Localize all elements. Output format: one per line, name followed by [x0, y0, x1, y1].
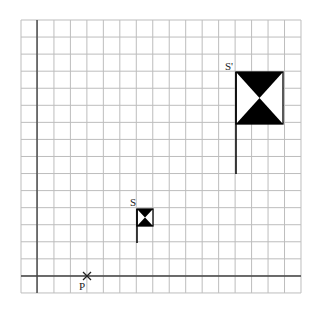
enlargement-diagram: SS'P: [0, 0, 318, 320]
label-s-prime: S': [225, 60, 233, 72]
label-p: P: [79, 280, 85, 292]
label-s: S: [130, 196, 136, 208]
